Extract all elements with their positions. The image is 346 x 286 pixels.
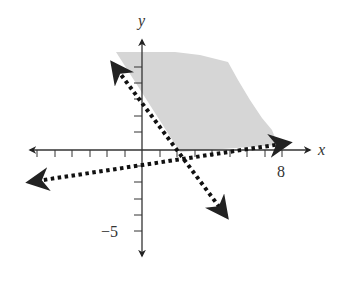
x-axis-label: x	[317, 141, 325, 158]
y-tick-label-neg5: −5	[101, 223, 118, 240]
y-axis-label: y	[136, 12, 146, 30]
boundary-line-2	[30, 143, 288, 182]
graph: y x 8 −5	[0, 0, 346, 286]
x-tick-label-8: 8	[277, 163, 285, 180]
